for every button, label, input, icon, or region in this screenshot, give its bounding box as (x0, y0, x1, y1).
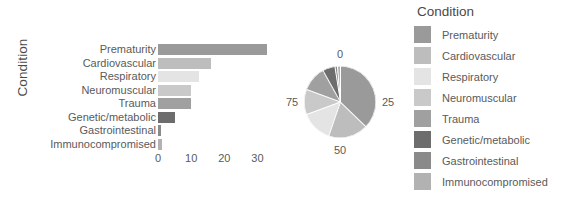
bar (158, 98, 191, 109)
bar-row (158, 97, 274, 111)
bar-category-label: Prematurity (34, 43, 156, 57)
legend-item-label: Neuromuscular (442, 92, 517, 104)
legend-item-label: Immunocompromised (442, 176, 548, 188)
legend-item-label: Trauma (442, 113, 480, 125)
y-axis-title: Condition (15, 8, 30, 128)
bar (158, 139, 162, 150)
bar (158, 85, 191, 96)
x-tick-label: 0 (155, 152, 161, 164)
legend-item[interactable]: Immunocompromised (414, 171, 576, 192)
bar-row (158, 111, 274, 125)
legend-items: PrematurityCardiovascularRespiratoryNeur… (414, 24, 576, 192)
bar-category-label: Immunocompromised (34, 138, 156, 152)
x-tick-label: 30 (251, 152, 263, 164)
bar-row (158, 84, 274, 98)
bar-category-label: Gastrointestinal (34, 124, 156, 138)
bar-plot-area (158, 43, 274, 151)
legend-item[interactable]: Gastrointestinal (414, 150, 576, 171)
bar (158, 112, 175, 123)
legend-item[interactable]: Respiratory (414, 66, 576, 87)
bar (158, 44, 267, 55)
bar (158, 71, 199, 82)
bar-row (158, 70, 274, 84)
bar-row (158, 124, 274, 138)
legend-item-label: Prematurity (442, 29, 498, 41)
pie-axis-label: 25 (382, 96, 394, 108)
bar-row (158, 138, 274, 152)
legend-swatch (414, 26, 431, 43)
legend-swatch (414, 68, 431, 85)
legend-item[interactable]: Genetic/metabolic (414, 129, 576, 150)
pie-chart-panel: 0255075 (286, 0, 410, 217)
legend-item[interactable]: Trauma (414, 108, 576, 129)
legend-item-label: Respiratory (442, 71, 498, 83)
legend-item-label: Cardiovascular (442, 50, 515, 62)
bar-chart-panel: Condition PrematurityCardiovascularRespi… (0, 0, 286, 217)
pie-frame (304, 66, 376, 138)
x-tick-label: 10 (185, 152, 197, 164)
bar (158, 58, 211, 69)
x-tick-label: 20 (218, 152, 230, 164)
bar-category-label: Respiratory (34, 70, 156, 84)
bar-category-label: Neuromuscular (34, 84, 156, 98)
bar-category-label: Trauma (34, 97, 156, 111)
legend-item[interactable]: Neuromuscular (414, 87, 576, 108)
pie-slice-divider (340, 66, 341, 102)
pie-axis-label: 50 (334, 144, 346, 156)
pie-axis-label: 0 (337, 48, 343, 60)
legend-swatch (414, 131, 431, 148)
legend-item[interactable]: Cardiovascular (414, 45, 576, 66)
bar-category-label: Cardiovascular (34, 57, 156, 71)
bar-category-label: Genetic/metabolic (34, 111, 156, 125)
legend-title: Condition (417, 4, 576, 19)
legend-swatch (414, 89, 431, 106)
legend-swatch (414, 152, 431, 169)
legend-swatch (414, 47, 431, 64)
bar-category-labels: PrematurityCardiovascularRespiratoryNeur… (34, 43, 156, 151)
legend-swatch (414, 173, 431, 190)
legend-item-label: Gastrointestinal (442, 155, 518, 167)
legend: Condition PrematurityCardiovascularRespi… (414, 4, 576, 192)
figure-canvas: Condition PrematurityCardiovascularRespi… (0, 0, 576, 217)
legend-item-label: Genetic/metabolic (442, 134, 530, 146)
bar-row (158, 57, 274, 71)
legend-item[interactable]: Prematurity (414, 24, 576, 45)
pie-axis-label: 75 (286, 96, 298, 108)
bar-row (158, 43, 274, 57)
x-axis-ticks: 0102030 (158, 152, 280, 170)
bar (158, 125, 161, 136)
legend-swatch (414, 110, 431, 127)
